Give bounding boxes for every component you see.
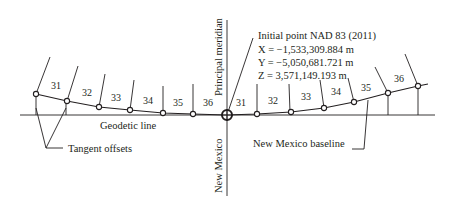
new-mexico-baseline-label: New Mexico baseline: [253, 138, 345, 149]
tangent-offsets-leader: [36, 108, 66, 148]
public-land-survey-diagram: 31 32 33 34 35 36 31 32 33 34 35 36 Init…: [0, 0, 453, 206]
initial-point-y: Y = −5,050,681.721 m: [258, 57, 353, 68]
initial-point-title: Initial point NAD 83 (2011): [258, 30, 377, 42]
principal-meridian-label: Principal meridian: [213, 17, 224, 96]
range-label-west-34: 34: [143, 95, 153, 106]
range-label-east-35: 35: [361, 82, 371, 93]
range-label-east-34: 34: [331, 86, 341, 97]
range-label-east-31: 31: [236, 97, 246, 108]
range-label-east-32: 32: [268, 95, 278, 106]
range-label-west-31: 31: [51, 80, 61, 91]
range-label-west-33: 33: [111, 92, 121, 103]
initial-point-marker: [221, 109, 233, 121]
range-label-west-36: 36: [203, 97, 213, 108]
tangent-offsets-label: Tangent offsets: [68, 143, 132, 154]
geodetic-line-label: Geodetic line: [100, 120, 157, 131]
range-label-west-35: 35: [173, 97, 183, 108]
range-label-east-33: 33: [301, 91, 311, 102]
initial-point-x: X = −1,533,309.884 m: [258, 44, 354, 55]
baseline-leader: [352, 100, 368, 149]
range-label-west-32: 32: [82, 87, 92, 98]
range-label-east-36: 36: [394, 73, 404, 84]
initial-point-z: Z = 3,571,149.193 m: [258, 70, 347, 81]
new-mexico-label: New Mexico: [213, 138, 224, 193]
